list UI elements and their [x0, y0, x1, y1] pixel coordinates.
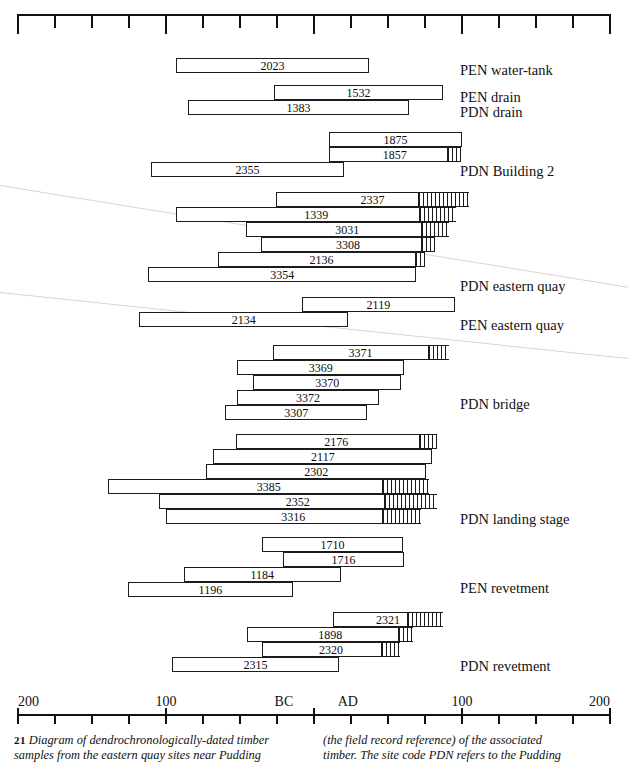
axis-tick [17, 708, 19, 724]
timber-bar[interactable]: 1875 [329, 132, 462, 147]
timber-bar[interactable]: 1898 [247, 627, 413, 642]
site-group-label: PDN Building 2 [460, 163, 554, 179]
timber-bar[interactable]: 3370 [253, 375, 401, 390]
axis-tick-label: 200 [589, 695, 610, 709]
timber-reference-label: 3308 [262, 239, 435, 251]
timber-reference-label: 3354 [149, 269, 415, 281]
timber-bar[interactable]: 2119 [302, 297, 454, 312]
caption-line-1: Diagram of dendrochronologically-dated t… [29, 733, 269, 747]
axis-tick [498, 714, 500, 724]
timber-reference-label: 2117 [214, 451, 431, 463]
axis-tick [54, 714, 56, 724]
timber-bar[interactable]: 3369 [237, 360, 404, 375]
timber-bar[interactable]: 3372 [237, 390, 379, 405]
timber-bar[interactable]: 1716 [283, 552, 404, 567]
dendrochronology-diagram: 2023153213831875185723552337133930313308… [0, 0, 628, 762]
axis-tick-label: 100 [452, 695, 473, 709]
axis-tick [313, 708, 315, 724]
site-group-label: PEN revetment [460, 580, 549, 596]
timber-bar[interactable]: 3307 [225, 405, 367, 420]
timber-bar[interactable]: 3308 [261, 237, 436, 252]
timber-bar[interactable]: 1857 [329, 147, 461, 162]
timber-reference-label: 2023 [177, 60, 367, 72]
caption-line-4: timber. The site code PDN refers to the … [323, 748, 561, 762]
timber-reference-label: 2136 [219, 254, 424, 266]
axis-tick [276, 714, 278, 724]
timber-reference-label: 3316 [167, 511, 420, 523]
timber-bar[interactable]: 2134 [139, 312, 348, 327]
timber-reference-label: 3371 [274, 347, 448, 359]
timber-bar[interactable]: 2117 [213, 449, 432, 464]
axis-tick [350, 714, 352, 724]
timber-reference-label: 2352 [160, 496, 436, 508]
timber-reference-label: 2321 [334, 614, 442, 626]
timber-bar[interactable]: 3371 [273, 345, 449, 360]
timber-reference-label: 3385 [109, 481, 428, 493]
timber-reference-label: 1875 [330, 134, 461, 146]
timber-reference-label: 3372 [238, 392, 378, 404]
timber-bar[interactable]: 2337 [276, 192, 470, 207]
timber-bar[interactable]: 1184 [184, 567, 341, 582]
site-group-label: PDN eastern quay [460, 278, 566, 294]
site-group-label: PEN drain [460, 89, 521, 105]
timber-reference-label: 2337 [277, 194, 469, 206]
timber-reference-label: 1857 [330, 149, 460, 161]
timber-reference-label: 2315 [173, 659, 338, 671]
caption-column-left: 21Diagram of dendrochronologically-dated… [14, 733, 309, 762]
timber-reference-label: 3307 [226, 407, 366, 419]
timber-reference-label: 3031 [247, 224, 448, 236]
timber-reference-label: 1898 [248, 629, 412, 641]
timber-reference-label: 2176 [237, 436, 436, 448]
bottom-axis: 200100BCAD100200 [0, 700, 628, 726]
site-group-label: PEN eastern quay [460, 317, 564, 333]
axis-tick [239, 714, 241, 724]
timber-bar[interactable]: 1710 [262, 537, 403, 552]
site-group-label: PDN bridge [460, 396, 530, 412]
caption-line-2: samples from the eastern quay sites near… [14, 748, 261, 762]
timber-bar[interactable]: 2320 [262, 642, 400, 657]
axis-tick [165, 708, 167, 724]
timber-bar[interactable]: 2136 [218, 252, 425, 267]
site-group-label: PEN water-tank [460, 62, 553, 78]
site-group-label: PDN revetment [460, 658, 551, 674]
timber-bar[interactable]: 2355 [151, 162, 343, 177]
axis-tick [128, 714, 130, 724]
timber-bar[interactable]: 2321 [333, 612, 443, 627]
timber-bar[interactable]: 2352 [159, 494, 437, 509]
timber-bar[interactable]: 2023 [176, 58, 368, 73]
timber-bar[interactable]: 3031 [246, 222, 449, 237]
timber-bar[interactable]: 1196 [128, 582, 294, 597]
axis-tick [424, 714, 426, 724]
timber-reference-label: 1196 [129, 584, 293, 596]
axis-tick [91, 714, 93, 724]
timber-reference-label: 2320 [263, 644, 399, 656]
timber-bar[interactable]: 2315 [172, 657, 339, 672]
timber-bar[interactable]: 3316 [166, 509, 421, 524]
axis-tick [461, 708, 463, 724]
site-group-label: PDN landing stage [460, 511, 570, 527]
timber-bar[interactable]: 2176 [236, 434, 437, 449]
axis-tick-label: 100 [156, 695, 177, 709]
timber-bar[interactable]: 3354 [148, 267, 416, 282]
timber-reference-label: 2355 [152, 164, 342, 176]
site-group-label: PDN drain [460, 104, 522, 120]
timber-reference-label: 1710 [263, 539, 402, 551]
timber-reference-label: 2134 [140, 314, 347, 326]
timber-reference-label: 1184 [185, 569, 340, 581]
timber-bar[interactable]: 1383 [188, 100, 409, 115]
figure-number: 21 [14, 734, 26, 746]
timber-reference-label: 2302 [207, 466, 426, 478]
axis-tick-label: 200 [18, 695, 39, 709]
axis-tick-label: BC [275, 695, 294, 709]
axis-tick-label: AD [338, 695, 358, 709]
figure-caption: 21Diagram of dendrochronologically-dated… [14, 733, 618, 762]
axis-tick [202, 714, 204, 724]
timber-bar[interactable]: 1532 [274, 85, 443, 100]
timber-bar[interactable]: 1339 [176, 207, 456, 222]
axis-tick [572, 714, 574, 724]
timber-bars-layer: 2023153213831875185723552337133930313308… [0, 0, 628, 762]
timber-reference-label: 3370 [254, 377, 400, 389]
timber-bar[interactable]: 2302 [206, 464, 427, 479]
timber-reference-label: 2119 [303, 299, 453, 311]
timber-bar[interactable]: 3385 [108, 479, 429, 494]
